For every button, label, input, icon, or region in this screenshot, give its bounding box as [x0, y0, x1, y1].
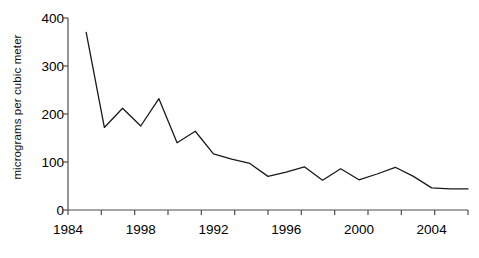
data-series-line [86, 32, 468, 188]
x-axis-tick-labels: 198419981992199620002004 [68, 222, 478, 246]
plot-area [68, 18, 468, 210]
x-tick-label: 1992 [198, 222, 228, 237]
x-tick-label: 1998 [126, 222, 156, 237]
x-tick-label: 2004 [417, 222, 447, 237]
y-tick-label: 400 [30, 11, 64, 26]
y-tick-label: 200 [30, 107, 64, 122]
y-axis-title-text: micrograms per cubic meter [11, 34, 23, 179]
y-tick-label: 100 [30, 155, 64, 170]
y-tick-label: 300 [30, 59, 64, 74]
x-tick-label: 1996 [271, 222, 301, 237]
x-tick-label: 1984 [53, 222, 83, 237]
y-tick-label: 0 [30, 203, 64, 218]
x-tick-label: 2000 [344, 222, 374, 237]
line-chart-svg [68, 18, 468, 210]
chart-figure: micrograms per cubic meter 0100200300400… [0, 0, 479, 258]
y-axis-tick-labels: 0100200300400 [28, 18, 64, 210]
axis-ticks [63, 18, 468, 215]
